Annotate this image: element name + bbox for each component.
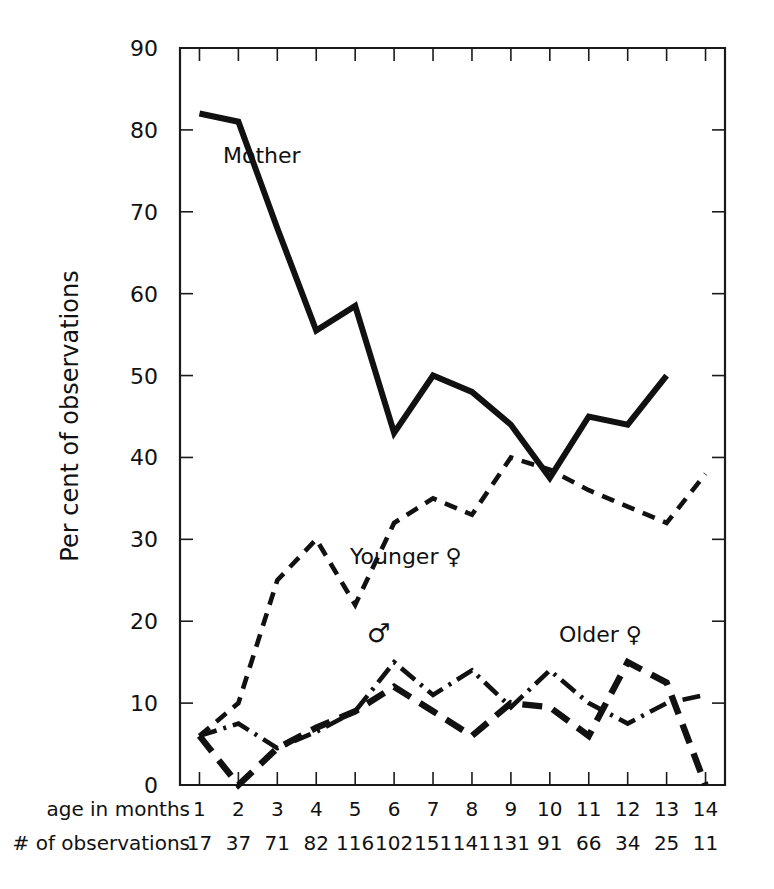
x-tick-label: 7 [427, 797, 440, 821]
observations-values: 173771821161021511411319166342511 [187, 831, 719, 855]
y-tick-label: 20 [130, 609, 158, 634]
y-tick-label: 40 [130, 445, 158, 470]
x-axis-title: age in months [46, 797, 190, 821]
observation-value: 11 [693, 831, 718, 855]
y-tick-label: 10 [130, 691, 158, 716]
observation-value: 116 [336, 831, 374, 855]
observations-row-label: # of observations [13, 831, 190, 855]
annotation-older: Older ♀ [559, 622, 642, 647]
y-tick-label: 70 [130, 200, 158, 225]
observation-value: 34 [615, 831, 640, 855]
x-tick-label: 6 [388, 797, 401, 821]
y-tick-label: 30 [130, 527, 158, 552]
x-tick-label: 1 [193, 797, 206, 821]
x-tick-label: 12 [615, 797, 640, 821]
y-tick-label: 80 [130, 118, 158, 143]
observation-value: 141 [453, 831, 491, 855]
x-tick-label: 14 [693, 797, 718, 821]
x-tick-label: 11 [576, 797, 601, 821]
chart-background [0, 0, 774, 889]
y-tick-label: 90 [130, 36, 158, 61]
x-tick-label: 10 [537, 797, 562, 821]
observation-value: 82 [304, 831, 329, 855]
chart-figure: 0102030405060708090 1234567891011121314 … [0, 0, 774, 889]
line-chart: 0102030405060708090 1234567891011121314 … [0, 0, 774, 889]
annotation-mother: Mother [223, 143, 302, 168]
y-tick-label: 50 [130, 364, 158, 389]
observation-value: 71 [265, 831, 290, 855]
x-tick-label: 5 [349, 797, 362, 821]
observation-value: 25 [654, 831, 679, 855]
y-tick-label: 60 [130, 282, 158, 307]
annotation-: ♂ [367, 618, 390, 648]
x-tick-label: 8 [466, 797, 479, 821]
x-tick-label: 3 [271, 797, 284, 821]
observation-value: 17 [187, 831, 212, 855]
y-axis-title: Per cent of observations [56, 270, 84, 561]
observation-value: 151 [414, 831, 452, 855]
observation-value: 37 [226, 831, 251, 855]
observation-value: 91 [537, 831, 562, 855]
x-tick-label: 9 [505, 797, 518, 821]
y-tick-label: 0 [144, 773, 158, 798]
annotation-younger: Younger ♀ [349, 544, 462, 569]
x-tick-label: 13 [654, 797, 679, 821]
observation-value: 131 [492, 831, 530, 855]
observation-value: 66 [576, 831, 601, 855]
observation-value: 102 [375, 831, 413, 855]
x-tick-label: 2 [232, 797, 245, 821]
x-tick-label: 4 [310, 797, 323, 821]
